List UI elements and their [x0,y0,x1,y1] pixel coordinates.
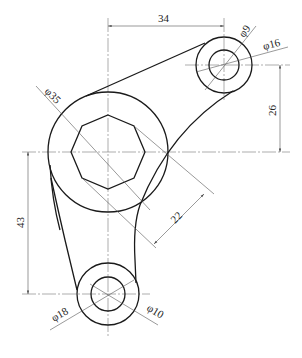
svg-text:26: 26 [266,105,278,117]
dimension-34: 34 [108,12,224,26]
svg-text:φ10: φ10 [145,301,166,320]
svg-text:φ18: φ18 [49,304,70,323]
svg-text:φ35: φ35 [43,85,64,106]
dimension-43: 43 [14,152,28,294]
center-lines [22,18,290,338]
dimension-26: 26 [266,65,280,152]
technical-drawing: 34 26 43 22 φ35 φ9 φ16 φ18 φ10 [0,0,302,358]
svg-text:34: 34 [158,12,170,24]
dimension-phi10: φ10 [90,284,166,325]
svg-text:φ9: φ9 [236,22,253,39]
svg-text:43: 43 [14,217,26,229]
dimension-phi35: φ35 [36,85,150,210]
svg-text:22: 22 [168,209,184,225]
